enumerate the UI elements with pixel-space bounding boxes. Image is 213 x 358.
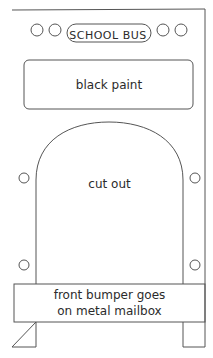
light-icon <box>157 24 169 36</box>
bumper-label-line1: front bumper goes <box>14 287 205 303</box>
mount-hole-icon <box>19 173 29 183</box>
light-icon <box>31 24 43 36</box>
mount-hole-icon <box>19 260 29 270</box>
light-icon <box>49 24 61 36</box>
cut-out-label: cut out <box>36 177 183 191</box>
light-icon <box>175 24 187 36</box>
mount-hole-icon <box>190 260 200 270</box>
top-panel-label: black paint <box>26 77 192 93</box>
mount-hole-icon <box>190 173 200 183</box>
bumper-label: front bumper goes on metal mailbox <box>14 287 205 319</box>
cut-out-arch <box>36 122 183 284</box>
sign-label: SCHOOL BUS <box>66 29 150 42</box>
bumper-label-line2: on metal mailbox <box>14 303 205 319</box>
